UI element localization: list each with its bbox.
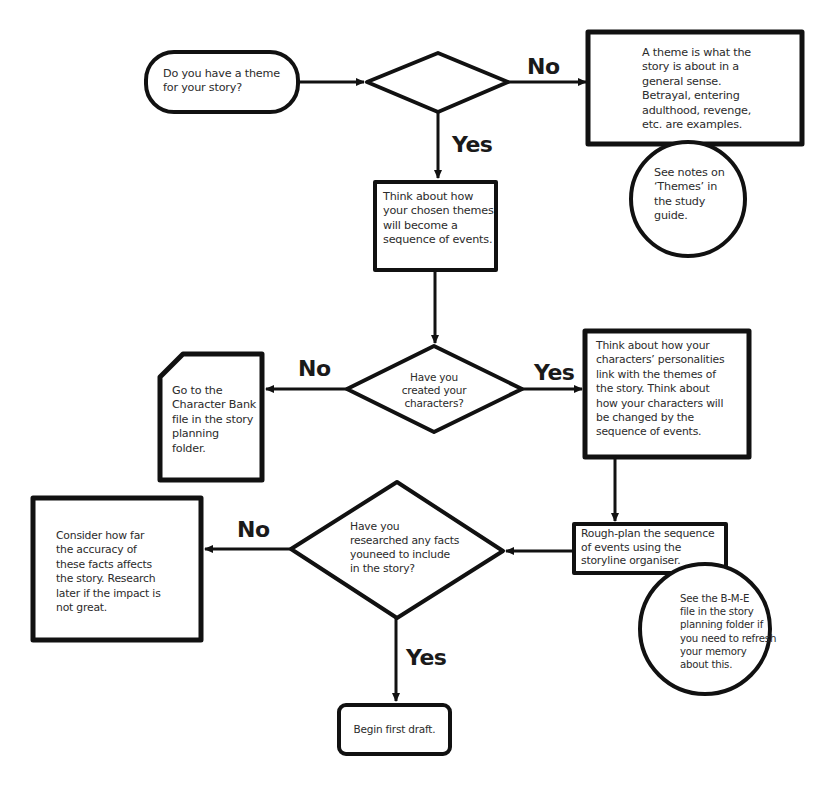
themes-to-events-text: Think about how your chosen themes will …: [383, 190, 498, 248]
decision-research-text: Have you researched any facts youneed to…: [350, 520, 470, 576]
start-line: Do you have a theme: [163, 67, 293, 81]
edge-label-research-yes: Yes: [406, 645, 446, 670]
bme-note-text: See the B-M-E file in the story planning…: [680, 592, 780, 671]
characters-link-line: Think about how your: [596, 339, 751, 353]
edge-label-research-no: No: [237, 517, 270, 542]
character-bank-line: folder.: [172, 442, 264, 456]
consider-accuracy-line: Consider how far: [56, 529, 206, 543]
theme-info-line: general sense.: [642, 75, 802, 89]
consider-accuracy-text: Consider how far the accuracy of these f…: [56, 529, 206, 615]
rough-plan-line: Rough-plan the sequence: [581, 527, 731, 541]
rough-plan-text: Rough-plan the sequence of events using …: [581, 527, 731, 568]
theme-info-line: etc. are examples.: [642, 118, 802, 132]
theme-info-text: A theme is what the story is about in a …: [642, 46, 802, 132]
consider-accuracy-line: the accuracy of: [56, 543, 206, 557]
theme-note-line: guide.: [654, 209, 734, 223]
consider-accuracy-line: not great.: [56, 601, 206, 615]
character-bank-line: file in the story: [172, 413, 264, 427]
decision-characters-line: characters?: [384, 397, 484, 410]
theme-note-line: See notes on: [654, 166, 734, 180]
start-line: for your story?: [163, 81, 293, 95]
theme-note-text: See notes on ‘Themes’ in the study guide…: [654, 166, 734, 224]
theme-note-line: the study: [654, 195, 734, 209]
edge-label-characters-no: No: [298, 356, 331, 381]
characters-link-line: be changed by the: [596, 411, 751, 425]
character-bank-line: Character Bank: [172, 398, 264, 412]
bme-note-line: planning folder if: [680, 618, 780, 631]
edge-label-theme-no: No: [527, 54, 560, 79]
begin-draft-text: Begin first draft.: [339, 722, 450, 736]
start-text: Do you have a theme for your story?: [163, 67, 293, 96]
rough-plan-line: storyline organiser.: [581, 554, 731, 568]
decision-research-line: youneed to include: [350, 548, 470, 562]
consider-accuracy-line: these facts affects: [56, 558, 206, 572]
decision-research-line: Have you: [350, 520, 470, 534]
edge-label-characters-yes: Yes: [534, 360, 574, 385]
themes-to-events-line: will become a: [383, 219, 498, 233]
decision-characters-line: Have you: [384, 371, 484, 384]
consider-accuracy-line: later if the impact is: [56, 587, 206, 601]
themes-to-events-line: sequence of events.: [383, 233, 498, 247]
themes-to-events-line: your chosen themes: [383, 204, 498, 218]
theme-info-line: adulthood, revenge,: [642, 104, 802, 118]
decision-research-line: researched any facts: [350, 534, 470, 548]
decision-characters-line: created your: [384, 384, 484, 397]
bme-note-line: your memory: [680, 645, 780, 658]
consider-accuracy-line: the story. Research: [56, 572, 206, 586]
characters-link-line: the story. Think about: [596, 382, 751, 396]
theme-info-line: A theme is what the: [642, 46, 802, 60]
bme-note-line: about this.: [680, 658, 780, 671]
decision-theme-diamond: [367, 53, 508, 112]
character-bank-text: Go to the Character Bank file in the sto…: [172, 384, 264, 456]
themes-to-events-line: Think about how: [383, 190, 498, 204]
theme-info-line: Betrayal, entering: [642, 89, 802, 103]
characters-link-line: how your characters will: [596, 397, 751, 411]
theme-note-line: ‘Themes’ in: [654, 180, 734, 194]
decision-characters-text: Have you created your characters?: [384, 371, 484, 410]
decision-research-line: in the story?: [350, 562, 470, 576]
characters-link-line: sequence of events.: [596, 425, 751, 439]
characters-link-text: Think about how your characters’ persona…: [596, 339, 751, 440]
character-bank-line: Go to the: [172, 384, 264, 398]
characters-link-line: link with the themes of: [596, 368, 751, 382]
bme-note-line: file in the story: [680, 605, 780, 618]
rough-plan-line: of events using the: [581, 541, 731, 555]
bme-note-line: See the B-M-E: [680, 592, 780, 605]
characters-link-line: characters’ personalities: [596, 353, 751, 367]
theme-info-line: story is about in a: [642, 60, 802, 74]
bme-note-line: you need to refresh: [680, 632, 780, 645]
edge-label-theme-yes: Yes: [452, 132, 492, 157]
character-bank-line: planning: [172, 427, 264, 441]
